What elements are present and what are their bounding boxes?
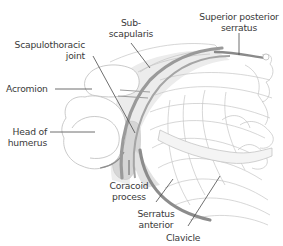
label-clavicle: Clavicle <box>166 232 200 243</box>
label-superior-posterior-serratus-line2: serratus <box>196 22 282 33</box>
label-subscapularis: Sub- scapularis <box>103 17 159 39</box>
label-coracoid-process-line2: process <box>105 191 153 202</box>
shoulder-anatomy-diagram: Sub- scapularis Superior posterior serra… <box>0 0 283 246</box>
label-clavicle-line1: Clavicle <box>166 232 200 243</box>
label-scapulothoracic-joint-line2: joint <box>0 50 85 61</box>
label-serratus-anterior: Serratus anterior <box>133 208 179 230</box>
label-scapulothoracic-joint-line1: Scapulothoracic <box>0 39 85 50</box>
label-head-of-humerus-line2: humerus <box>0 137 47 148</box>
label-scapulothoracic-joint: Scapulothoracic joint <box>0 39 85 61</box>
label-subscapularis-line2: scapularis <box>103 28 159 39</box>
label-superior-posterior-serratus-line1: Superior posterior <box>196 11 282 22</box>
label-serratus-anterior-line2: anterior <box>133 219 179 230</box>
label-serratus-anterior-line1: Serratus <box>133 208 179 219</box>
label-subscapularis-line1: Sub- <box>103 17 159 28</box>
label-coracoid-process: Coracoid process <box>105 180 153 202</box>
label-coracoid-process-line1: Coracoid <box>105 180 153 191</box>
label-acromion: Acromion <box>6 83 48 94</box>
label-superior-posterior-serratus: Superior posterior serratus <box>196 11 282 33</box>
label-acromion-line1: Acromion <box>6 83 48 94</box>
label-head-of-humerus-line1: Head of <box>0 126 47 137</box>
label-head-of-humerus: Head of humerus <box>0 126 47 148</box>
